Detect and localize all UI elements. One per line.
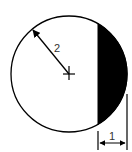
radius-label: 2: [54, 42, 60, 54]
width-label: 1: [109, 130, 115, 142]
shaded-circular-segment: [98, 24, 127, 125]
segment-diagram: 2 1: [0, 0, 132, 152]
